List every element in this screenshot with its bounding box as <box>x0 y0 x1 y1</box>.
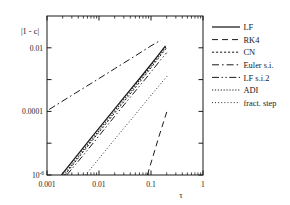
legend-item-label: LF s.i.2 <box>244 74 270 83</box>
legend-item-label: CN <box>244 48 256 57</box>
y-tick-label: 0.0001 <box>22 107 43 116</box>
x-tick-label: 0.1 <box>146 180 156 189</box>
y-axis-title: |1 - c| <box>21 27 40 36</box>
x-tick-label: 0.01 <box>92 180 105 189</box>
x-tick-label: 1 <box>201 180 205 189</box>
y-tick-label: 0.01 <box>30 44 43 53</box>
svg-text:0.0001: 0.0001 <box>22 107 43 116</box>
convergence-plot-figure: 0.0010.010.11 0.010.000110-6 τ |1 - c| L… <box>0 0 290 205</box>
legend-item-label: fract. step <box>244 99 277 108</box>
legend-item-label: RK4 <box>244 36 261 45</box>
legend-item-label: LF <box>244 23 254 32</box>
chart-page: 0.0010.010.11 0.010.000110-6 τ |1 - c| L… <box>0 0 290 205</box>
legend-item-label: ADI <box>244 86 259 95</box>
svg-text:0.01: 0.01 <box>30 44 43 53</box>
x-tick-label: 0.001 <box>38 180 55 189</box>
legend-item-label: Euler s.i. <box>244 61 274 70</box>
